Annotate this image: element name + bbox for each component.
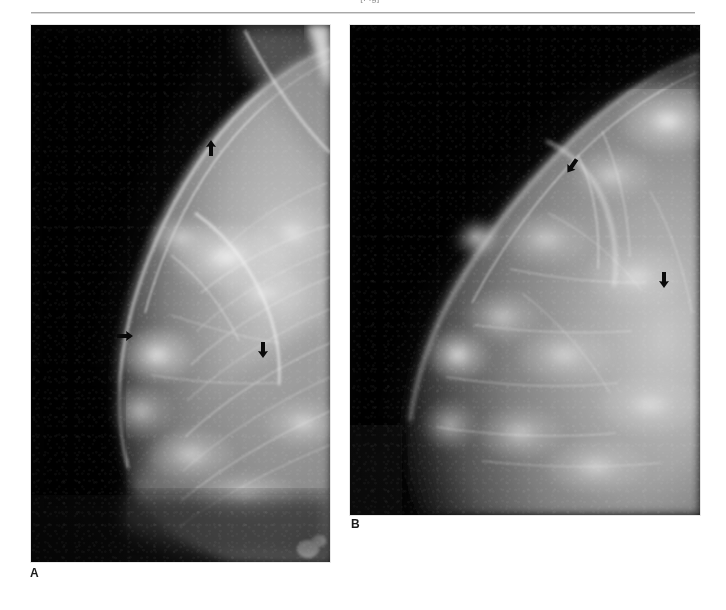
figure-mammogram-pair: A (0, 0, 726, 610)
film-grain-a (31, 25, 330, 562)
figure-panel-a (31, 25, 330, 562)
arrow-a-2 (116, 328, 134, 344)
film-grain-b (350, 25, 700, 515)
arrow-a-1 (203, 139, 219, 157)
page-root: [Fig] (0, 0, 726, 610)
arrow-a-3 (255, 341, 271, 359)
panel-label-b: B (351, 517, 360, 531)
figure-panel-b (350, 25, 700, 515)
panel-label-a: A (30, 566, 39, 580)
arrow-b-2 (656, 271, 672, 289)
